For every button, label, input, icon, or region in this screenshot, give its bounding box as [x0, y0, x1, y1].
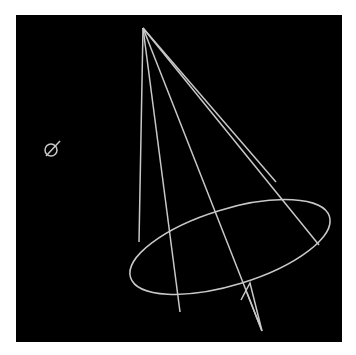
generator-line [143, 28, 276, 182]
base-ellipse [119, 180, 340, 313]
origin-marker-icon [45, 141, 60, 156]
cone-wireframe [0, 0, 356, 355]
generator-line [143, 28, 319, 245]
generator-line [143, 28, 180, 312]
generator-line [139, 28, 143, 242]
generator-line [143, 28, 262, 331]
arrow-tip [241, 283, 262, 331]
